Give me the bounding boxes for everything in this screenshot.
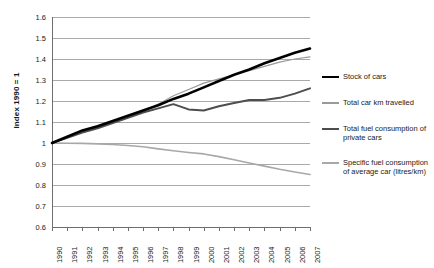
x-tick-mark xyxy=(234,227,235,231)
legend-label: Stock of cars xyxy=(343,72,386,81)
x-axis-tick-labels: 1990199119921993199419951996199719981999… xyxy=(52,233,310,267)
x-tick-mark xyxy=(113,227,114,231)
x-tick-label: 2007 xyxy=(313,247,322,263)
x-tick-label: 1991 xyxy=(70,247,79,263)
legend-item[interactable]: Total car km travelled xyxy=(322,98,434,108)
x-tick-mark xyxy=(204,227,205,231)
x-tick-label: 2005 xyxy=(283,247,292,263)
legend-label: Total car km travelled xyxy=(343,98,414,107)
x-tick-mark xyxy=(249,227,250,231)
x-tick-mark xyxy=(143,227,144,231)
x-tick-mark xyxy=(52,227,53,231)
x-tick-label: 1999 xyxy=(192,247,201,263)
x-tick-label: 2001 xyxy=(222,247,231,263)
x-tick-label: 1995 xyxy=(131,247,140,263)
x-tick-label: 2004 xyxy=(267,247,276,263)
x-tick-mark xyxy=(158,227,159,231)
legend-item[interactable]: Specific fuel consumption of average car… xyxy=(322,158,434,177)
legend-label: Specific fuel consumption of average car… xyxy=(343,158,434,177)
legend-item[interactable]: Stock of cars xyxy=(322,72,434,82)
x-tick-label: 2006 xyxy=(298,247,307,263)
x-tick-label: 1992 xyxy=(85,247,94,263)
legend-line-icon xyxy=(322,98,339,108)
x-tick-label: 1990 xyxy=(55,247,64,263)
x-tick-label: 1996 xyxy=(146,247,155,263)
legend-line-icon xyxy=(322,72,339,82)
x-tick-mark xyxy=(280,227,281,231)
x-tick-mark xyxy=(189,227,190,231)
x-tick-mark xyxy=(310,227,311,231)
x-tick-label: 1998 xyxy=(176,247,185,263)
legend-label: Total fuel consumption of private cars xyxy=(343,124,434,143)
x-tick-mark xyxy=(264,227,265,231)
series-line xyxy=(52,49,310,144)
x-tick-mark xyxy=(295,227,296,231)
x-tick-label: 1997 xyxy=(161,247,170,263)
x-tick-label: 1994 xyxy=(116,247,125,263)
series-line xyxy=(52,143,310,175)
x-tick-label: 2000 xyxy=(207,247,216,263)
legend-line-icon xyxy=(322,158,339,168)
x-tick-mark xyxy=(219,227,220,231)
line-chart: Index 1990 = 1 1.61.51.41.31.21.110.90.8… xyxy=(0,0,434,268)
x-tick-mark xyxy=(128,227,129,231)
x-tick-mark xyxy=(82,227,83,231)
x-tick-label: 2002 xyxy=(237,247,246,263)
legend-line-icon xyxy=(322,124,339,134)
x-tick-label: 1993 xyxy=(101,247,110,263)
x-tick-mark xyxy=(67,227,68,231)
x-tick-label: 2003 xyxy=(252,247,261,263)
legend-item[interactable]: Total fuel consumption of private cars xyxy=(322,124,434,143)
x-tick-mark xyxy=(98,227,99,231)
x-tick-mark xyxy=(173,227,174,231)
